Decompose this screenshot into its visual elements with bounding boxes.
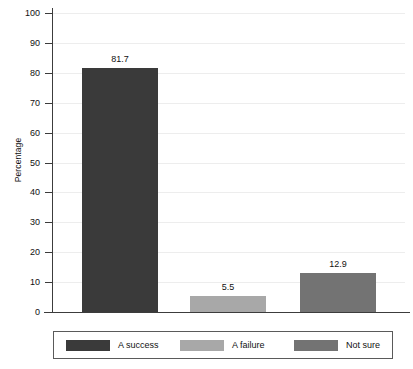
bar-a-success — [82, 68, 158, 312]
legend-label: A failure — [232, 340, 265, 350]
bar-value-label: 5.5 — [190, 283, 266, 292]
legend-label: A success — [118, 340, 159, 350]
x-axis-line — [44, 312, 410, 313]
legend-swatch-icon — [66, 340, 110, 351]
legend-swatch-icon — [294, 340, 338, 351]
bar-a-failure — [190, 296, 266, 312]
legend-item-not-sure[interactable]: Not sure — [294, 332, 380, 358]
y-tick-mark — [45, 312, 52, 313]
legend: A successA failureNot sure — [53, 331, 393, 359]
bar-chart: Percentage 0102030405060708090100 81.75.… — [0, 0, 413, 369]
bar-value-label: 12.9 — [300, 260, 376, 269]
bar-not-sure — [300, 273, 376, 312]
legend-swatch-icon — [180, 340, 224, 351]
bar-value-label: 81.7 — [82, 55, 158, 64]
legend-item-a-success[interactable]: A success — [66, 332, 159, 358]
legend-label: Not sure — [346, 340, 380, 350]
legend-item-a-failure[interactable]: A failure — [180, 332, 265, 358]
